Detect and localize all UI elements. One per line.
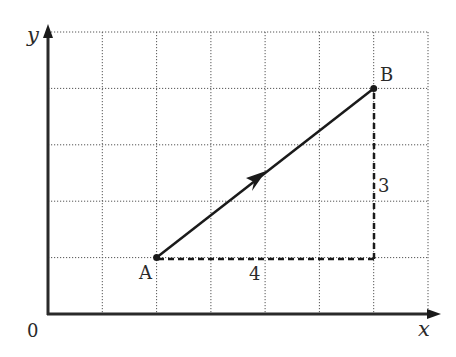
vector-diagram: y x 0 A B 4 3 <box>0 0 456 357</box>
y-axis-label: y <box>26 23 40 47</box>
point-b <box>370 85 377 92</box>
horizontal-component-label: 4 <box>249 263 260 284</box>
point-b-label: B <box>380 64 393 85</box>
vertical-component-label: 3 <box>378 175 389 196</box>
origin-label: 0 <box>27 320 38 341</box>
y-axis-arrow-icon <box>43 24 53 38</box>
vector-direction-arrow-icon <box>246 171 266 191</box>
axes <box>47 36 430 315</box>
point-a-label: A <box>138 262 153 283</box>
x-axis-label: x <box>418 317 430 341</box>
vector-components <box>158 90 374 259</box>
point-a <box>153 254 160 261</box>
grid <box>48 32 428 314</box>
diagram-canvas: y x 0 A B 4 3 <box>0 0 456 357</box>
